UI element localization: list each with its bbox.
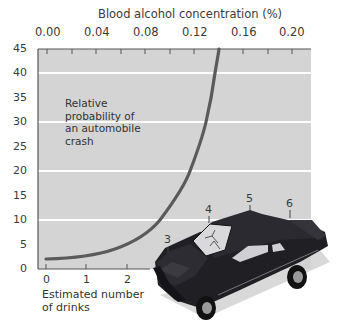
x-tick-label: 2 — [124, 274, 131, 286]
crash-probability-chart: Blood alcohol concentration (%) 0.00 0.0… — [0, 0, 339, 333]
x-axis-title-line: Estimated number — [42, 289, 144, 302]
x-tick-label: 0 — [43, 274, 50, 286]
annotation-line: Relative — [65, 97, 141, 110]
x-axis-title: Estimated number of drinks — [42, 289, 144, 314]
annotation-line: probability of — [65, 110, 141, 123]
x-car-label: 3 — [164, 234, 171, 246]
annotation-line: crash — [65, 135, 141, 148]
y-axis-annotation: Relative probability of an automobile cr… — [65, 97, 141, 147]
x-car-label: 5 — [246, 193, 253, 205]
annotation-line: an automobile — [65, 122, 141, 135]
x-car-label: 6 — [286, 198, 293, 210]
plot-svg — [0, 0, 339, 333]
x-tick-label: 1 — [83, 274, 90, 286]
x-car-label: 4 — [205, 204, 212, 216]
x-axis-title-line: of drinks — [42, 302, 144, 315]
